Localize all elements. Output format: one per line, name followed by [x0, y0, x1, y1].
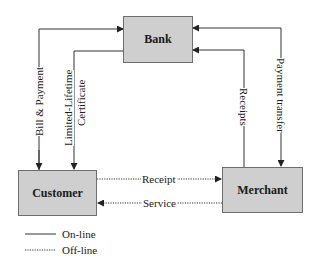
customer-node: Customer — [18, 170, 97, 216]
bank-node: Bank — [123, 16, 193, 63]
legend-offline-label: Off-line — [62, 244, 97, 256]
receipts-label: Receipts — [238, 88, 250, 126]
receipts-line — [193, 50, 244, 167]
certificate-label-line1: Limited-Lifetime — [62, 70, 74, 146]
certificate-label-line2: Certificate — [75, 80, 87, 126]
payment-transfer-line — [193, 28, 281, 40]
legend-online-label: On-line — [62, 228, 96, 240]
payment-transfer-label: Payment transfer — [275, 58, 287, 133]
bank-label: Bank — [144, 32, 171, 47]
service-label: Service — [142, 197, 177, 209]
merchant-node: Merchant — [222, 167, 303, 213]
bill-payment-label: Bill & Payment — [33, 67, 45, 136]
merchant-label: Merchant — [237, 183, 287, 198]
customer-label: Customer — [32, 186, 83, 201]
receipt-label: Receipt — [141, 173, 177, 185]
